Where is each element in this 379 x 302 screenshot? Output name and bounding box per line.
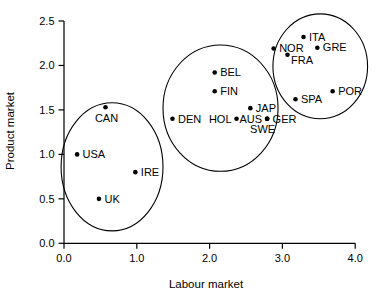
- data-point-FIN: [212, 89, 217, 94]
- point-label-GER: GER: [273, 113, 297, 125]
- point-label-NOR: NOR: [279, 42, 304, 54]
- point-label-DEN: DEN: [178, 113, 201, 125]
- data-point-SWE: [265, 117, 270, 122]
- data-point-DEN: [170, 117, 175, 122]
- data-point-ITA: [301, 35, 306, 40]
- point-label-FRA: FRA: [291, 54, 314, 66]
- point-label-CAN: CAN: [95, 112, 118, 124]
- point-label-SPA: SPA: [301, 93, 323, 105]
- data-point-FRA: [285, 52, 290, 57]
- point-label-IRE: IRE: [141, 166, 159, 178]
- point-label-HOL: HOL: [209, 113, 232, 125]
- y-tick-label-2.0: 2.0: [39, 59, 54, 71]
- point-label-USA: USA: [83, 148, 106, 160]
- point-label-GRE: GRE: [323, 41, 347, 53]
- data-point-JAP: [248, 106, 253, 111]
- point-label-POR: POR: [338, 85, 362, 97]
- data-point-SPA: [293, 97, 298, 102]
- data-point-NOR: [271, 46, 276, 51]
- data-point-UK: [97, 197, 102, 202]
- y-axis-ticks: 0.00.51.01.52.02.5: [39, 15, 64, 249]
- y-tick-label-1.5: 1.5: [39, 104, 54, 116]
- x-tick-label-4.0: 4.0: [348, 252, 363, 264]
- x-axis-title: Labour market: [169, 278, 244, 290]
- x-tick-label-3.0: 3.0: [275, 252, 290, 264]
- data-point-GRE: [315, 45, 320, 50]
- y-tick-label-2.5: 2.5: [39, 15, 54, 27]
- data-point-USA: [75, 152, 80, 157]
- x-tick-label-1.0: 1.0: [129, 252, 144, 264]
- y-tick-label-0.0: 0.0: [39, 237, 54, 249]
- scatter-figure: 0.01.02.03.04.0 0.00.51.01.52.02.5 Labou…: [0, 0, 379, 302]
- y-tick-label-0.5: 0.5: [39, 193, 54, 205]
- x-tick-label-0.0: 0.0: [56, 252, 71, 264]
- x-tick-label-2.0: 2.0: [202, 252, 217, 264]
- point-label-SWE: SWE: [250, 123, 275, 135]
- scatter-plot: 0.01.02.03.04.0 0.00.51.01.52.02.5 Labou…: [0, 0, 379, 302]
- data-point-HOL: [234, 117, 239, 122]
- data-point-CAN: [103, 105, 108, 110]
- x-axis-ticks: 0.01.02.03.04.0: [56, 243, 362, 263]
- y-axis-title: Product market: [4, 91, 16, 170]
- point-label-BEL: BEL: [220, 66, 241, 78]
- point-label-FIN: FIN: [220, 85, 238, 97]
- data-points: USACANUKIREDENBELFINHOLJAPAUSGERSWENORIT…: [75, 31, 362, 205]
- data-point-BEL: [212, 70, 217, 75]
- data-point-IRE: [133, 170, 138, 175]
- data-point-POR: [330, 89, 335, 94]
- y-tick-label-1.0: 1.0: [39, 148, 54, 160]
- point-label-UK: UK: [104, 193, 120, 205]
